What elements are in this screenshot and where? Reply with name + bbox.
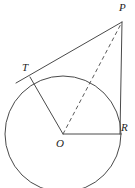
circle-o — [5, 76, 121, 188]
vertex-label-t: T — [22, 62, 28, 73]
geometry-figure: P T O R — [0, 0, 135, 188]
vertex-label-p: P — [119, 2, 126, 13]
segment-to-radius — [30, 77, 63, 134]
figure-canvas — [0, 0, 135, 188]
segment-rp — [120, 22, 122, 134]
vertex-label-o: O — [56, 138, 64, 149]
vertex-label-r: R — [121, 122, 128, 133]
